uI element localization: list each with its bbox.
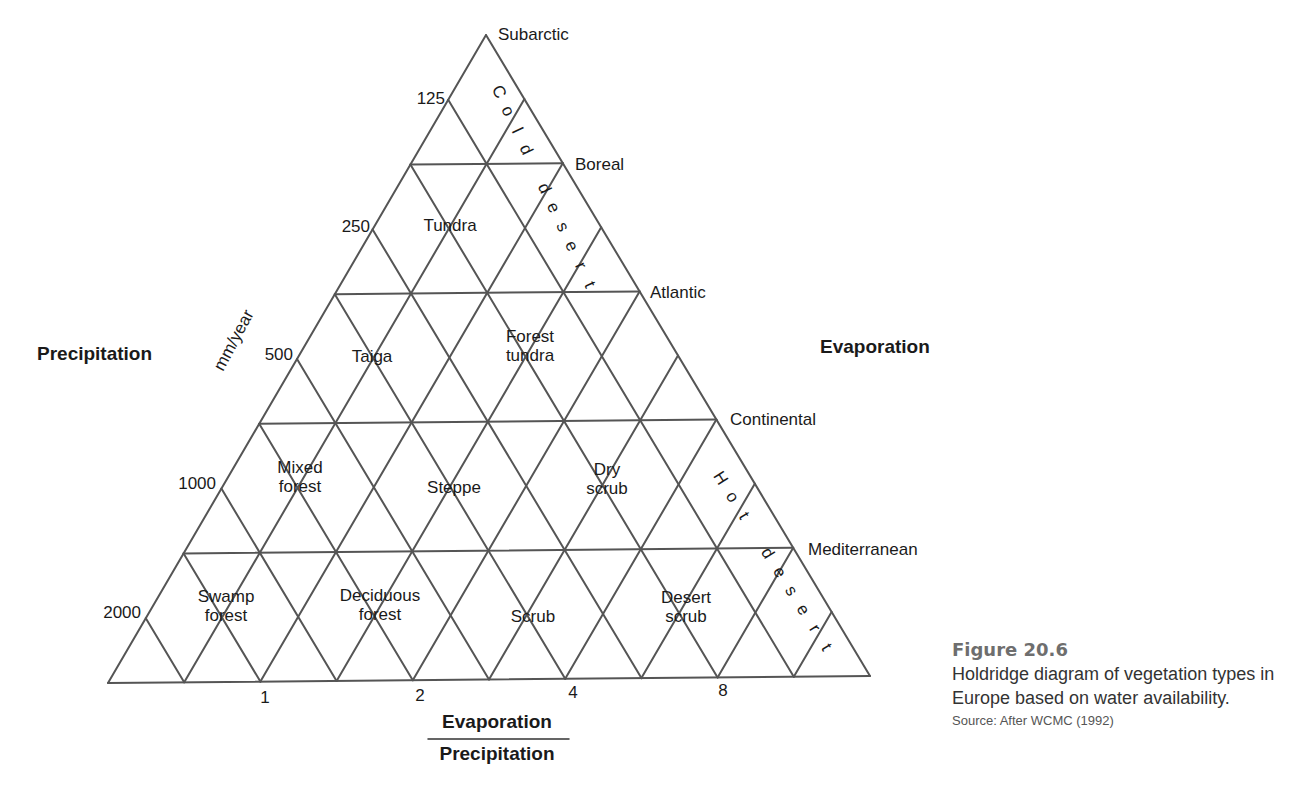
precipitation-unit-label: mm/year	[210, 306, 258, 374]
zone-label: Swampforest	[198, 587, 255, 625]
half-step-diagonal-line	[146, 618, 184, 682]
precipitation-axis-title: Precipitation	[37, 343, 152, 364]
half-step-diagonal-line	[373, 229, 642, 678]
figure-caption: Figure 20.6 Holdridge diagram of vegetat…	[952, 639, 1292, 728]
desert-band-letter: t	[817, 640, 836, 654]
zone-label: Mixedforest	[277, 458, 322, 496]
desert-band-letter: e	[792, 600, 813, 618]
desert-band-letter: o	[497, 103, 518, 120]
figure-source: Source: After WCMC (1992)	[952, 713, 1292, 728]
desert-band-letter: H	[709, 468, 732, 489]
zone-label: Deciduousforest	[340, 586, 420, 624]
climate-label: Mediterranean	[808, 540, 918, 559]
half-step-diagonal-line	[221, 489, 336, 681]
zone-label: Dryscrub	[586, 460, 628, 498]
zone-label: Scrub	[511, 607, 555, 626]
climate-label: Atlantic	[650, 283, 706, 302]
zone-label: Foresttundra	[506, 327, 555, 365]
climate-label: Continental	[730, 410, 816, 429]
desert-band-letter: l	[508, 125, 527, 137]
ratio-tick-label: 2	[415, 686, 424, 705]
half-step-diagonal-line	[297, 359, 489, 680]
climate-label: Subarctic	[498, 25, 569, 44]
figure-number: Figure 20.6	[952, 639, 1292, 661]
desert-band-letter: e	[561, 238, 582, 255]
desert-band-letter: t	[735, 509, 754, 523]
zone-label: Desertscrub	[661, 588, 711, 626]
ratio-tick-label: 4	[568, 683, 577, 702]
desert-band-letter: o	[722, 488, 743, 506]
ratio-denominator-label: Precipitation	[439, 743, 554, 764]
half-step-diagonal-line	[448, 100, 794, 677]
ratio-tick-label: 1	[260, 688, 269, 707]
precipitation-tick-label: 2000	[103, 603, 141, 622]
axis-tick-labels: 125250500100020001248	[103, 89, 728, 707]
desert-band-labels: ColddesertHotdesert	[488, 82, 836, 654]
ratio-numerator-label: Evaporation	[442, 711, 552, 732]
half-step-diagonal-line	[489, 356, 678, 680]
precipitation-tick-label: 125	[417, 89, 445, 108]
half-step-diagonal-line	[641, 484, 754, 678]
ratio-tick-label: 8	[718, 681, 727, 700]
zone-label: Steppe	[427, 478, 481, 497]
desert-band-letter: d	[757, 544, 778, 562]
desert-band-letter: e	[769, 563, 790, 581]
zone-label: Tundra	[423, 216, 477, 235]
precipitation-tick-label: 250	[342, 217, 370, 236]
precipitation-tick-label: 1000	[178, 474, 216, 493]
desert-band-letter: d	[516, 141, 537, 158]
figure-description: Holdridge diagram of vegetation types in…	[952, 662, 1292, 710]
desert-band-letter: C	[488, 82, 510, 101]
precipitation-tick-label: 500	[265, 345, 293, 364]
evaporation-axis-title: Evaporation	[820, 336, 930, 357]
desert-band-letter: e	[543, 199, 564, 216]
desert-band-letter: s	[781, 582, 802, 599]
desert-band-letter: s	[552, 219, 573, 235]
desert-band-letter: t	[580, 278, 599, 291]
zone-label: Taiga	[352, 347, 393, 366]
climate-label: Boreal	[575, 155, 624, 174]
